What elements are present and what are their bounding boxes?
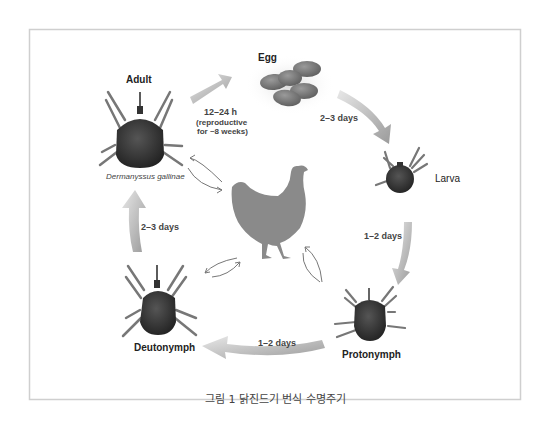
stage-label-deutonymph: Deutonymph (134, 342, 195, 353)
species-label: Dermanyssus gallinae (106, 172, 185, 181)
figure-caption: 그림 1 닭진드기 번식 수명주기 (0, 390, 551, 406)
duration-adult-to-egg-note-2: for ~8 weeks) (197, 127, 248, 136)
stage-label-egg: Egg (258, 52, 277, 63)
stage-label-larva: Larva (435, 173, 460, 184)
duration-adult-to-egg: 12–24 h (204, 107, 237, 117)
adult-mite-icon (100, 92, 182, 168)
arrow-adult-to-egg (190, 74, 232, 104)
stage-label-adult: Adult (126, 74, 152, 85)
life-cycle-diagram (0, 0, 551, 437)
duration-larva-to-protonymph: 1–2 days (364, 231, 402, 241)
protonymph-mite-icon (335, 287, 405, 341)
chicken-icon (232, 166, 308, 260)
duration-deutonymph-to-adult: 2–3 days (141, 222, 179, 232)
duration-egg-to-larva: 2–3 days (320, 113, 358, 123)
arrow-deutonymph-to-adult (122, 190, 146, 252)
deutonymph-mite-icon (123, 265, 196, 336)
duration-adult-to-egg-note-1: (reproductive (196, 118, 247, 127)
larva-mite-icon (376, 148, 427, 193)
stage-label-protonymph: Protonymph (342, 349, 401, 360)
duration-protonymph-to-deutonymph: 1–2 days (258, 338, 296, 348)
